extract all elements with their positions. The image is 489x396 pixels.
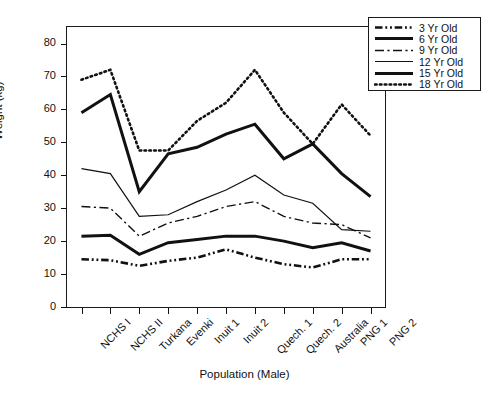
x-tick-mark (371, 308, 372, 314)
legend-item: 15 Yr Old (374, 68, 475, 79)
y-tick-label: 80 (22, 36, 56, 48)
x-tick-mark (226, 308, 227, 314)
y-tick-label: 50 (22, 135, 56, 147)
series-line-3-yr-old (81, 249, 370, 267)
y-axis-title: Weight (kg) (0, 81, 4, 140)
y-tick-mark (61, 241, 66, 242)
legend-line-sample (374, 79, 414, 90)
legend-item: 18 Yr Old (374, 79, 475, 90)
legend-label: 15 Yr Old (419, 67, 463, 79)
legend-line-sample (374, 68, 414, 79)
x-tick-mark (313, 308, 314, 314)
series-lines (67, 27, 385, 307)
series-line-6-yr-old (81, 235, 370, 254)
x-axis-title: Population (Male) (0, 368, 489, 380)
legend-line-sample (374, 45, 414, 56)
legend-label: 12 Yr Old (419, 56, 463, 68)
y-tick-mark (61, 208, 66, 209)
x-tick-label: PNG 2 (386, 316, 418, 348)
y-tick-label: 10 (22, 267, 56, 279)
y-tick-mark (61, 307, 66, 308)
y-tick-label: 60 (22, 102, 56, 114)
x-tick-label: Inuit 2 (241, 316, 271, 346)
legend-label: 6 Yr Old (419, 33, 457, 45)
x-tick-mark (255, 308, 256, 314)
y-tick-mark (61, 175, 66, 176)
legend-item: 6 Yr Old (374, 33, 475, 44)
y-tick-label: 30 (22, 201, 56, 213)
legend-item: 9 Yr Old (374, 45, 475, 56)
x-tick-mark (168, 308, 169, 314)
x-tick-mark (284, 308, 285, 314)
legend-label: 9 Yr Old (419, 44, 457, 56)
x-tick-mark (139, 308, 140, 314)
weight-by-population-line-chart: Weight (kg) 01020304050607080 NCHS INCHS… (0, 0, 489, 396)
x-tick-mark (82, 308, 83, 314)
x-tick-label: Inuit 1 (212, 316, 242, 346)
legend-line-sample (374, 22, 414, 33)
legend-item: 3 Yr Old (374, 22, 475, 33)
y-tick-mark (61, 109, 66, 110)
legend-label: 3 Yr Old (419, 22, 457, 34)
legend-line-sample (374, 56, 414, 67)
x-tick-mark (342, 308, 343, 314)
y-tick-label: 0 (22, 300, 56, 312)
y-tick-mark (61, 76, 66, 77)
series-line-9-yr-old (81, 202, 370, 238)
y-tick-label: 70 (22, 69, 56, 81)
x-tick-mark (110, 308, 111, 314)
y-tick-mark (61, 44, 66, 45)
chart-legend: 3 Yr Old6 Yr Old9 Yr Old12 Yr Old15 Yr O… (368, 17, 481, 91)
y-tick-mark (61, 274, 66, 275)
legend-line-sample (374, 33, 414, 44)
legend-item: 12 Yr Old (374, 56, 475, 67)
x-tick-mark (197, 308, 198, 314)
y-tick-label: 20 (22, 234, 56, 246)
y-tick-label: 40 (22, 168, 56, 180)
plot-area (66, 26, 386, 308)
legend-label: 18 Yr Old (419, 78, 463, 90)
y-tick-mark (61, 142, 66, 143)
